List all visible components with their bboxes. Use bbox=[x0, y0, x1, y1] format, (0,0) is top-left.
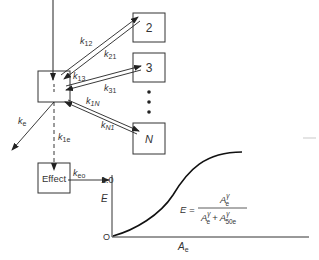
k31-label: k31 bbox=[104, 83, 116, 94]
hill-equation: E = Aγe Aγe+Aγ50e bbox=[180, 192, 247, 225]
k1e-label: k1e bbox=[58, 132, 70, 143]
pk-pd-diagram: 2 3 N k12 k21 k13 k31 k1N kN1 ke k1e Eff… bbox=[0, 0, 319, 260]
ke-elimination-arrow bbox=[12, 102, 54, 150]
k12-arrow bbox=[61, 17, 138, 75]
equation-lhs: E = bbox=[180, 204, 195, 215]
keo-label: keo bbox=[73, 168, 85, 179]
kn1-label: kN1 bbox=[101, 120, 115, 131]
effect-compartment-label: Effect bbox=[42, 173, 66, 184]
compartment-2-label: 2 bbox=[146, 21, 153, 35]
ellipsis-dot bbox=[147, 90, 151, 94]
k21-label: k21 bbox=[104, 49, 116, 60]
equation-numerator: Aγe bbox=[219, 192, 230, 207]
y-max-label: 1.0 bbox=[101, 175, 114, 185]
ellipsis-dot bbox=[147, 110, 151, 114]
k13-label: k13 bbox=[73, 71, 85, 82]
ke-label: ke bbox=[18, 116, 27, 127]
ellipsis-dot bbox=[147, 100, 151, 104]
k1n-label: k1N bbox=[86, 96, 100, 107]
compartment-3-label: 3 bbox=[146, 61, 153, 75]
equation-denominator: Aγe+Aγ50e bbox=[200, 210, 237, 225]
compartment-n-label: N bbox=[145, 133, 153, 145]
x-axis-label: Ae bbox=[177, 241, 189, 253]
origin-label: O bbox=[103, 232, 110, 242]
k12-label: k12 bbox=[80, 36, 92, 47]
y-axis-label: E bbox=[101, 193, 108, 204]
